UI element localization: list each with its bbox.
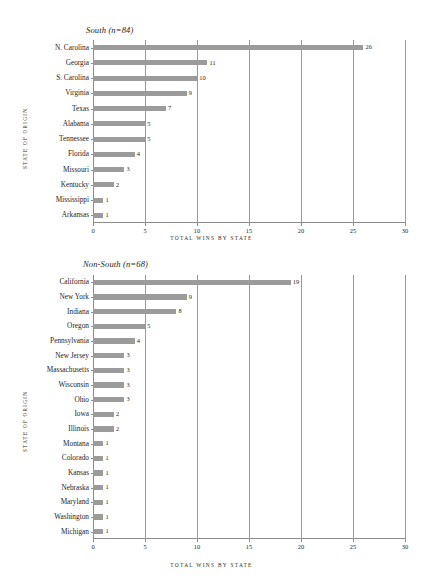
bar [93, 441, 103, 446]
gridline [405, 275, 406, 539]
y-tick-label: Illinois [68, 425, 89, 432]
x-tick-mark [197, 223, 198, 226]
bar [93, 324, 145, 329]
bar-value-label: 1 [106, 470, 109, 476]
x-tick-mark [353, 539, 354, 542]
bar [93, 529, 103, 534]
bar-row: 3 [93, 397, 405, 402]
bar [93, 294, 187, 299]
bar-row: 10 [93, 76, 405, 81]
bar [93, 121, 145, 126]
y-tick-label: Maryland [61, 499, 89, 506]
bar [93, 426, 114, 431]
y-tick-label: Florida [68, 151, 89, 158]
x-tick-mark [93, 223, 94, 226]
y-tick-label: Arkansas [62, 212, 89, 219]
bar [93, 485, 103, 490]
x-axis-title-non-south: TOTAL WINS BY STATE [0, 562, 423, 568]
bar-value-label: 3 [126, 352, 129, 358]
bar-value-label: 1 [106, 197, 109, 203]
gridline [249, 40, 250, 223]
x-tick-mark [145, 539, 146, 542]
bar-row: 7 [93, 106, 405, 111]
y-tick-label: Oregon [67, 323, 89, 330]
y-tick-label: Montana [63, 440, 89, 447]
y-tick-label: Iowa [74, 411, 89, 418]
y-tick-label: New Jersey [55, 352, 89, 359]
bar [93, 60, 207, 65]
bar-row: 1 [93, 213, 405, 218]
gridline [353, 40, 354, 223]
bar-row: 8 [93, 309, 405, 314]
bar-row: 4 [93, 152, 405, 157]
bar-value-label: 5 [147, 136, 150, 142]
y-tick-label: Alabama [63, 120, 89, 127]
bar-value-label: 2 [116, 182, 119, 188]
bar [93, 500, 103, 505]
bar [93, 338, 135, 343]
bar-row: 1 [93, 470, 405, 475]
y-tick-label: Ohio [74, 396, 89, 403]
y-axis-title-south: STATE OF ORIGIN [22, 92, 28, 184]
bar-value-label: 1 [106, 440, 109, 446]
bar-value-label: 11 [210, 60, 216, 66]
x-tick-label: 25 [350, 228, 356, 234]
bar-row: 1 [93, 500, 405, 505]
plot-area-south: 261110975543211 [93, 40, 405, 223]
chart-south: South (n=84)STATE OF ORIGIN2611109755432… [0, 0, 423, 255]
x-tick-label: 0 [91, 228, 94, 234]
y-tick-label: Massachusetts [47, 367, 89, 374]
gridline [197, 40, 198, 223]
x-tick-label: 20 [298, 544, 304, 550]
x-tick-label: 5 [143, 544, 146, 550]
chart-title-south: South (n=84) [86, 25, 133, 35]
bar [93, 182, 114, 187]
bar-row: 1 [93, 514, 405, 519]
bar [93, 152, 135, 157]
chart-title-non-south: Non-South (n=68) [83, 259, 148, 269]
bar [93, 309, 176, 314]
y-tick-label: Mississippi [56, 196, 89, 203]
y-tick-label: Wisconsin [58, 381, 89, 388]
y-tick-label: New York [59, 293, 89, 300]
bar-row: 19 [93, 280, 405, 285]
x-tick-label: 25 [350, 544, 356, 550]
bar [93, 280, 291, 285]
y-tick-label: Texas [72, 105, 89, 112]
bar-row: 26 [93, 45, 405, 50]
y-tick-label: Georgia [66, 59, 89, 66]
bar-value-label: 1 [106, 455, 109, 461]
bar-value-label: 2 [116, 411, 119, 417]
bar-value-label: 7 [168, 105, 171, 111]
x-tick-mark [249, 223, 250, 226]
x-tick-label: 15 [246, 544, 252, 550]
y-tick-label: Nebraska [61, 484, 89, 491]
y-tick-label: Pennsylvania [50, 337, 89, 344]
x-tick-mark [93, 539, 94, 542]
x-tick-mark [249, 539, 250, 542]
x-tick-mark [145, 223, 146, 226]
bar-value-label: 26 [366, 44, 372, 50]
bar [93, 106, 166, 111]
bar-value-label: 19 [293, 279, 299, 285]
x-tick-mark [301, 223, 302, 226]
bar-row: 1 [93, 529, 405, 534]
bar [93, 412, 114, 417]
x-tick-mark [197, 539, 198, 542]
x-tick-label: 0 [91, 544, 94, 550]
bar-row: 3 [93, 353, 405, 358]
y-tick-label: Indiana [67, 308, 89, 315]
bar [93, 167, 124, 172]
bar-value-label: 3 [126, 382, 129, 388]
y-tick-label: California [59, 279, 89, 286]
bar [93, 137, 145, 142]
bar-value-label: 3 [126, 166, 129, 172]
bar-value-label: 9 [189, 90, 192, 96]
y-tick-label: Virginia [65, 90, 89, 97]
bar-value-label: 8 [178, 308, 181, 314]
y-tick-label: N. Carolina [55, 44, 89, 51]
bar-row: 3 [93, 167, 405, 172]
bar [93, 514, 103, 519]
y-tick-label: Kansas [68, 469, 89, 476]
bar-value-label: 3 [126, 367, 129, 373]
